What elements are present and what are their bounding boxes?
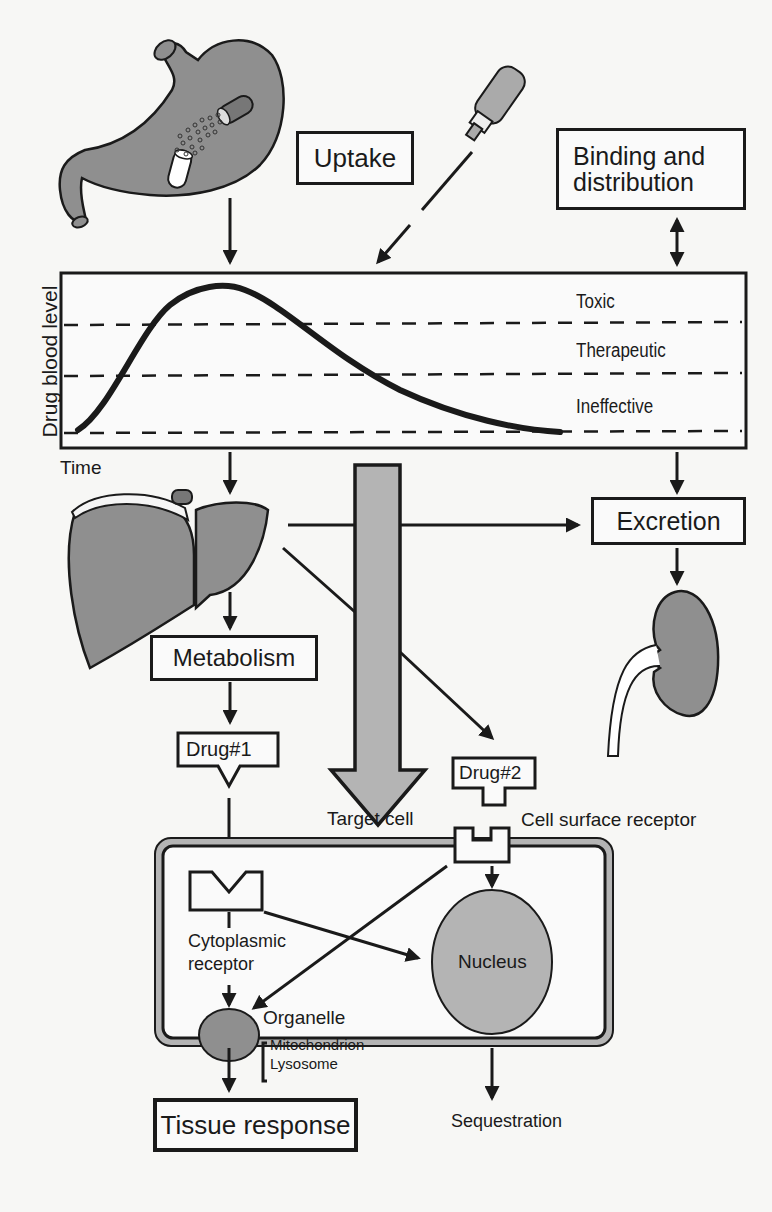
drug2-label: Drug#2 bbox=[459, 763, 521, 784]
excretion-box: Excretion bbox=[591, 497, 746, 545]
sequestration-label: Sequestration bbox=[451, 1112, 562, 1132]
drug1-label: Drug#1 bbox=[186, 738, 252, 760]
uptake-box: Uptake bbox=[296, 131, 414, 185]
chart-x-label: Time bbox=[60, 458, 102, 479]
zone-ineffective: Ineffective bbox=[576, 395, 653, 417]
zone-therapeutic: Therapeutic bbox=[576, 339, 666, 361]
kidney-icon bbox=[608, 591, 718, 756]
arrow-injection-to-chart bbox=[378, 225, 410, 262]
nucleus-label: Nucleus bbox=[458, 952, 527, 973]
big-down-arrow-icon bbox=[331, 465, 425, 825]
lysosome-label: Lysosome bbox=[270, 1056, 338, 1073]
binding-line2: distribution bbox=[573, 169, 694, 195]
stomach-icon bbox=[60, 36, 284, 229]
zone-toxic: Toxic bbox=[576, 290, 615, 312]
metabolism-box: Metabolism bbox=[150, 635, 318, 681]
cell-surface-receptor-label: Cell surface receptor bbox=[521, 810, 696, 831]
syringe-icon bbox=[422, 62, 529, 210]
mitochondrion-label: Mitochondrion bbox=[270, 1037, 364, 1054]
cytoplasmic-receptor-line1: Cytoplasmic bbox=[188, 932, 286, 952]
organelle-label: Organelle bbox=[263, 1008, 345, 1029]
tissue-response-box: Tissue response bbox=[153, 1098, 358, 1152]
binding-line1: Binding and bbox=[573, 143, 705, 169]
binding-distribution-box: Binding and distribution bbox=[556, 128, 746, 210]
chart-y-label: Drug blood level bbox=[38, 282, 61, 442]
cell-surface-receptor-shape bbox=[455, 828, 509, 862]
target-cell-label: Target cell bbox=[327, 809, 414, 830]
cytoplasmic-receptor-line2: receptor bbox=[188, 955, 254, 975]
